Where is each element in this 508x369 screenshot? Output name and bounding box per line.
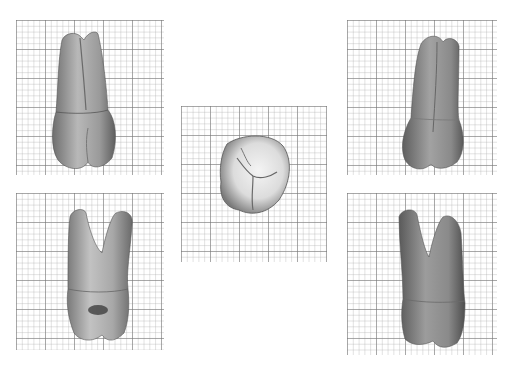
specimen-panel-top-left [16,20,164,175]
tooth-lingual-view-image [16,193,164,350]
tooth-occlusal-view-image [181,106,327,262]
tooth-distal-view-image [347,193,497,355]
specimen-panel-bottom-left [16,193,164,350]
tooth-mesial-view-image [347,20,497,175]
specimen-panel-center [181,106,327,262]
specimen-panel-bottom-right [347,193,497,355]
specimen-panel-top-right [347,20,497,175]
tooth-buccal-view-image [16,20,164,175]
